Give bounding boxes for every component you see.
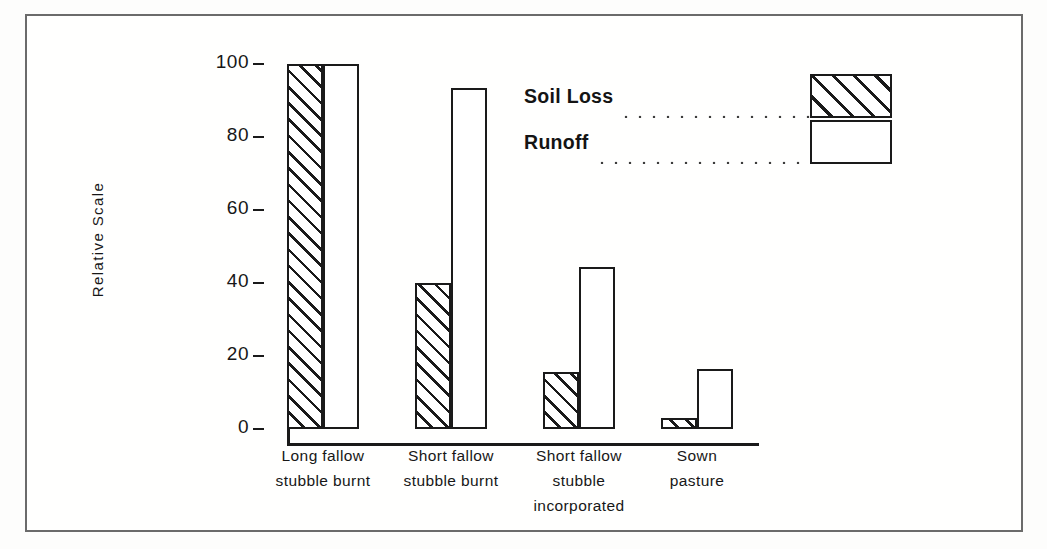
bar-soil-loss-group-4 [661,418,697,429]
bar-soil-loss-group-2 [415,283,451,429]
bar-soil-loss-group-3 [543,372,579,429]
category-label-line: incorporated [489,493,669,518]
y-axis-tick-label: 100 [195,51,249,73]
bar-runoff-group-1 [323,64,359,429]
bar-soil-loss-group-1 [287,64,323,429]
y-axis-tick-label: 20 [195,343,249,365]
y-axis-tick-label: 0 [195,416,249,438]
legend-row-runoff: Runoff [524,120,814,164]
y-axis-tick-label: 60 [195,197,249,219]
y-axis-tick [253,428,264,430]
legend-swatch-soil-loss [810,74,892,118]
category-label-line: pasture [607,468,787,493]
legend-swatch-runoff [810,120,892,164]
chart-page: 020406080100 Relative Scale Long fallows… [0,0,1047,549]
legend-label-runoff: Runoff [524,131,589,154]
y-axis-tick [253,355,264,357]
bar-runoff-group-2 [451,88,487,429]
legend-leader-dots [619,104,814,118]
legend-label-soil-loss: Soil Loss [524,85,613,108]
legend-leader-dots [595,150,814,164]
chart-legend: Soil Loss Runoff [524,74,894,169]
y-axis-tick [253,136,264,138]
legend-row-soil-loss: Soil Loss [524,74,814,118]
y-axis-tick-label: 40 [195,270,249,292]
y-axis-tick [253,63,264,65]
category-label-line: Sown [607,443,787,468]
y-axis-tick [253,209,264,211]
bar-runoff-group-3 [579,267,615,429]
y-axis-tick [253,282,264,284]
figure-frame: 020406080100 Relative Scale Long fallows… [25,14,1023,532]
y-axis-title: Relative Scale [89,145,106,335]
y-axis-tick-label: 80 [195,124,249,146]
category-label-4: Sownpasture [607,443,787,493]
bar-runoff-group-4 [697,369,733,429]
